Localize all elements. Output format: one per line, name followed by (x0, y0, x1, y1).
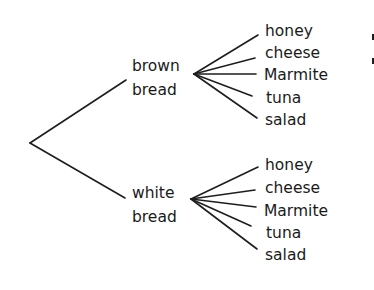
leaf-white-marmite: Marmite (264, 202, 328, 220)
brown-bread-edges (194, 35, 258, 118)
edge-root-to-brown-bread (30, 80, 126, 143)
leaf-white-salad: salad (265, 246, 306, 264)
leaf-brown-salad: salad (265, 111, 306, 129)
leaf-brown-tuna: tuna (266, 89, 301, 107)
leaf-white-honey: honey (265, 156, 313, 174)
edge-brown-tuna (194, 74, 252, 96)
edge-brown-cheese (194, 58, 255, 74)
leaf-brown-cheese: cheese (265, 44, 320, 62)
edge-root-to-white-bread (30, 143, 125, 198)
node-brown-bread-line1: brown (132, 57, 180, 75)
leaf-brown-honey: honey (265, 22, 313, 40)
white-bread-edges (191, 167, 258, 249)
edge-brown-honey (194, 35, 258, 74)
node-white-bread-line2: bread (132, 208, 177, 226)
edge-brown-salad (194, 74, 257, 118)
leaf-brown-marmite: Marmite (264, 66, 328, 84)
node-brown-bread-line2: bread (132, 81, 177, 99)
leaf-white-cheese: cheese (265, 179, 320, 197)
leaf-white-tuna: tuna (266, 224, 301, 242)
tree-diagram: brown bread honey cheese Marmite tuna sa… (0, 0, 374, 290)
node-white-bread-line1: white (132, 184, 174, 202)
